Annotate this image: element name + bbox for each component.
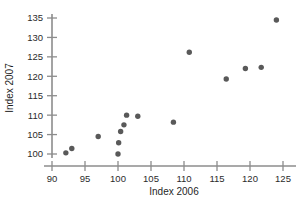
data-points-group <box>63 17 279 156</box>
y-tick-label: 120 <box>27 71 43 82</box>
y-tick-label: 105 <box>27 129 43 140</box>
y-tick-label: 125 <box>27 51 43 62</box>
x-tick-label: 115 <box>209 173 224 184</box>
y-tick-label: 130 <box>27 32 43 43</box>
x-axis-title: Index 2006 <box>149 186 199 197</box>
data-point <box>124 112 129 117</box>
data-point <box>115 151 120 156</box>
data-point <box>243 66 248 71</box>
x-tick-label: 100 <box>110 173 126 184</box>
scatter-plot: 100105110115120125130135 909510010511011… <box>0 0 304 203</box>
x-tick-label: 110 <box>176 173 191 184</box>
data-point <box>118 129 123 134</box>
data-point <box>187 49 192 54</box>
x-tick-label: 125 <box>275 173 291 184</box>
y-tick-label: 110 <box>28 110 43 121</box>
x-tick-label: 105 <box>143 173 159 184</box>
y-tick-label: 100 <box>27 148 43 159</box>
x-tick-label: 95 <box>80 173 91 184</box>
y-tick-labels: 100105110115120125130135 <box>27 12 43 159</box>
data-point <box>121 122 126 127</box>
y-tick-label: 115 <box>28 90 43 101</box>
data-point <box>63 150 68 155</box>
y-tick-label: 135 <box>27 12 43 23</box>
x-tick-label: 120 <box>242 173 258 184</box>
data-point <box>274 17 279 22</box>
y-axis-group: 100105110115120125130135 <box>27 12 57 159</box>
y-axis-title: Index 2007 <box>4 63 15 113</box>
data-point <box>69 146 74 151</box>
data-point <box>259 65 264 70</box>
x-tick-label: 90 <box>47 173 58 184</box>
data-point <box>135 114 140 119</box>
data-point <box>224 76 229 81</box>
chart-page: 100105110115120125130135 909510010511011… <box>0 0 304 203</box>
data-point <box>171 119 176 124</box>
data-point <box>116 140 121 145</box>
data-point <box>96 134 101 139</box>
x-tick-labels: 9095100105110115120125 <box>47 173 291 184</box>
x-axis-group: 9095100105110115120125 <box>44 161 296 184</box>
